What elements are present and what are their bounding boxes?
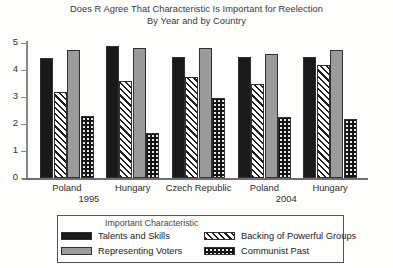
bar: [251, 84, 264, 179]
legend-entry-label: Backing of Powerful Groups: [241, 231, 356, 241]
y-axis-tick-label: 5: [13, 36, 18, 47]
bar: [172, 57, 185, 179]
legend-entry: Representing Voters: [61, 246, 182, 256]
y-axis-tick-label: 4: [13, 63, 18, 74]
diagonal-hatch-swatch: [204, 232, 235, 241]
bar: [344, 119, 357, 178]
bar-chart: Does R Agree That Characteristic Is Impo…: [0, 0, 393, 268]
bar: [238, 57, 251, 179]
bar-group: [106, 43, 160, 178]
bar: [40, 58, 53, 178]
y-axis-tick: 2: [21, 124, 26, 125]
plot-area: 012345: [26, 43, 367, 178]
bar: [146, 133, 159, 178]
bar-group: [40, 43, 94, 178]
chart-title-line-1: Does R Agree That Characteristic Is Impo…: [0, 3, 393, 15]
x-axis-line: [22, 178, 368, 180]
bar-group: [303, 43, 357, 178]
solid-gray-swatch: [61, 247, 92, 256]
y-axis-tick-label: 1: [13, 144, 18, 155]
bar: [106, 46, 119, 178]
y-axis-tick: 0: [21, 178, 26, 179]
y-axis-tick-label: 0: [13, 171, 18, 182]
chart-title: Does R Agree That Characteristic Is Impo…: [0, 3, 393, 27]
legend-entry-label: Talents and Skills: [98, 231, 170, 241]
bar: [212, 98, 225, 178]
bar: [133, 48, 146, 178]
y-axis-tick-label: 3: [13, 90, 18, 101]
y-axis-tick-label: 2: [13, 117, 18, 128]
legend-entry-label: Communist Past: [241, 246, 309, 256]
y-axis-line: [26, 41, 28, 178]
y-axis-tick: 4: [21, 70, 26, 71]
legend-entry: Talents and Skills: [61, 231, 170, 241]
x-axis-period-label: 2004: [236, 193, 336, 204]
solid-black-swatch: [61, 232, 92, 241]
x-axis-category-label: Hungary: [280, 182, 380, 193]
bar: [278, 117, 291, 178]
legend: Important Characteristic Talents and Ski…: [57, 215, 344, 263]
legend-entry: Communist Past: [204, 246, 309, 256]
bar-group: [172, 43, 226, 178]
legend-entry: Backing of Powerful Groups: [204, 231, 356, 241]
y-axis-tick: 5: [21, 43, 26, 44]
bar: [330, 50, 343, 178]
y-axis-tick: 3: [21, 97, 26, 98]
bar: [199, 48, 212, 178]
bar: [119, 81, 132, 178]
dotted-black-swatch: [204, 247, 235, 256]
bar: [317, 65, 330, 178]
legend-entry-label: Representing Voters: [98, 246, 182, 256]
x-axis-period-label: 1995: [39, 193, 139, 204]
y-axis-tick: 1: [21, 151, 26, 152]
legend-title: Important Characteristic: [105, 218, 198, 228]
bar-group: [238, 43, 292, 178]
bar: [303, 57, 316, 179]
bar: [54, 92, 67, 178]
bar: [265, 54, 278, 178]
chart-title-line-2: By Year and by Country: [0, 15, 393, 27]
bar: [81, 116, 94, 178]
bar: [67, 50, 80, 178]
bar: [185, 77, 198, 178]
